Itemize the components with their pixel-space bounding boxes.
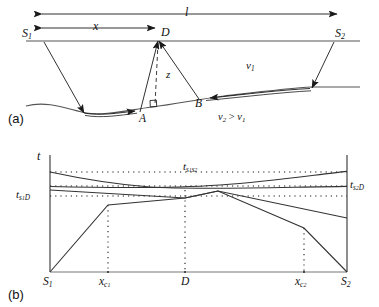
panel-b-graphic [50,155,347,273]
label-dimension-l: l [185,6,188,18]
seismic-refraction-figure [0,0,379,307]
label-curve-t-s2d: ts2D [350,179,364,192]
curve-total-time-s2 [50,171,347,187]
panel-label-b: (b) [8,288,24,301]
tick-dot-xc2 [303,271,305,273]
label-velocity-relation: v2 > v1 [218,112,245,123]
ray-s2-down [312,42,334,88]
x-tick-label-s2: S2 [341,276,351,288]
label-point-b: B [195,98,202,110]
ray-head-wave-s2-b [210,89,310,99]
x-tick-label-s1: S1 [43,276,53,288]
label-curve-t-s1d: ts1D [16,189,30,202]
label-velocity-v1: v1 [246,60,255,73]
label-depth-z: z [166,69,170,80]
label-dimension-x: x [93,20,98,32]
x-tick-label-d: D [181,276,189,288]
panel-label-a: (a) [8,112,24,125]
x-tick-label-xc2: xc2 [295,276,306,288]
ray-s1-down [44,42,84,113]
label-curve-t-s1s2: ts1s2 [183,161,197,174]
right-angle-marker [150,100,157,107]
label-y-axis-t: t [37,150,40,162]
x-tick-label-xc1: xc1 [99,276,110,288]
tick-dot-d [184,271,186,273]
ray-b-to-d [159,41,199,99]
curve-traveltime-reverse [50,190,347,272]
panel-a-graphic [26,14,360,117]
label-detector-d: D [161,26,170,38]
label-point-a: A [139,113,146,125]
label-source-2: S2 [335,27,345,41]
curve-traveltime-forward [50,191,347,272]
tick-dot-xc1 [107,271,109,273]
label-source-1: S1 [22,27,32,41]
